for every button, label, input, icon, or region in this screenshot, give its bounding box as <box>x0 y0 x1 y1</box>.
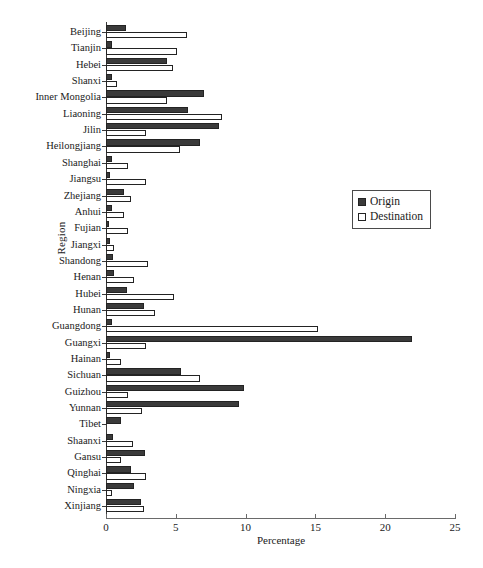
bar-chart: Region BeijingTianjinHebeiShanxiInner Mo… <box>0 0 483 568</box>
bar-row: Inner Mongolia <box>0 89 483 105</box>
bar-row: Xinjiang <box>0 498 483 514</box>
bar-destination <box>106 212 124 218</box>
bar-destination <box>106 277 134 283</box>
bar-row: Beijing <box>0 24 483 40</box>
bar-row: Henan <box>0 269 483 285</box>
bar-origin <box>106 221 109 227</box>
bar-origin <box>106 287 127 293</box>
bar-origin <box>106 90 204 96</box>
bar-origin <box>106 41 112 47</box>
x-axis-tick-label: 10 <box>226 521 266 533</box>
bar-destination <box>106 81 117 87</box>
bar-destination <box>106 32 187 38</box>
y-axis-tick-label: Hainan <box>0 351 101 367</box>
bar-origin <box>106 270 114 276</box>
bar-destination <box>106 114 222 120</box>
y-axis-tick-label: Jilin <box>0 122 101 138</box>
y-axis-tick-label: Hunan <box>0 302 101 318</box>
bar-origin <box>106 385 244 391</box>
legend-swatch-destination-icon <box>358 213 366 221</box>
x-axis-tick <box>176 514 177 519</box>
bar-row: Shaanxi <box>0 433 483 449</box>
bar-row: Ningxia <box>0 482 483 498</box>
bar-origin <box>106 417 121 423</box>
y-axis-tick-label: Heilongjiang <box>0 138 101 154</box>
y-axis-tick-label: Guangxi <box>0 335 101 351</box>
bar-destination <box>106 310 155 316</box>
bar-row: Jiangsu <box>0 171 483 187</box>
bar-row: Yunnan <box>0 400 483 416</box>
bar-origin <box>106 107 188 113</box>
x-axis-tick-label: 5 <box>156 521 196 533</box>
y-axis-tick-label: Anhui <box>0 204 101 220</box>
bar-origin <box>106 58 167 64</box>
x-axis-title: Percentage <box>106 534 456 546</box>
y-axis-tick-label: Tibet <box>0 416 101 432</box>
y-axis-tick-label: Beijing <box>0 24 101 40</box>
y-axis-tick-label: Jiangxi <box>0 237 101 253</box>
bar-destination <box>106 473 146 479</box>
bar-destination <box>106 179 146 185</box>
bar-origin <box>106 499 141 505</box>
x-axis-tick <box>385 514 386 519</box>
bar-destination <box>106 294 174 300</box>
bar-destination <box>106 146 180 152</box>
bar-row: Gansu <box>0 449 483 465</box>
x-axis-tick <box>106 514 107 519</box>
bar-destination <box>106 261 148 267</box>
bar-origin <box>106 352 110 358</box>
y-axis-tick-label: Gansu <box>0 449 101 465</box>
x-axis-tick <box>246 514 247 519</box>
y-axis-tick-label: Hubei <box>0 286 101 302</box>
y-axis-tick-label: Tianjin <box>0 40 101 56</box>
bar-destination <box>106 196 131 202</box>
y-axis-tick-label: Xinjiang <box>0 498 101 514</box>
bar-row: Hebei <box>0 57 483 73</box>
legend-swatch-origin-icon <box>358 198 366 206</box>
bar-destination <box>106 65 173 71</box>
bar-origin <box>106 139 200 145</box>
bar-row: Tibet <box>0 416 483 432</box>
bar-destination <box>106 228 128 234</box>
y-axis-tick-label: Shandong <box>0 253 101 269</box>
bar-row: Hunan <box>0 302 483 318</box>
bar-destination <box>106 359 121 365</box>
x-axis-tick <box>455 514 456 519</box>
bar-origin <box>106 74 112 80</box>
y-axis-tick-label: Ningxia <box>0 482 101 498</box>
bar-origin <box>106 303 144 309</box>
bar-destination <box>106 392 128 398</box>
y-axis-tick-label: Shaanxi <box>0 433 101 449</box>
bar-destination <box>106 408 142 414</box>
bar-destination <box>106 343 146 349</box>
y-axis-tick-label: Inner Mongolia <box>0 89 101 105</box>
x-axis-tick-label: 25 <box>435 521 475 533</box>
bar-destination <box>106 326 318 332</box>
bar-origin <box>106 172 110 178</box>
y-axis-tick-label: Liaoning <box>0 106 101 122</box>
bar-origin <box>106 401 239 407</box>
y-axis-tick-label: Hebei <box>0 57 101 73</box>
y-axis-tick <box>102 424 106 425</box>
legend-label-destination: Destination <box>370 209 423 224</box>
bar-row: Guangxi <box>0 335 483 351</box>
bar-destination <box>106 97 167 103</box>
bar-origin <box>106 368 181 374</box>
legend-label-origin: Origin <box>370 194 400 209</box>
x-axis-tick-label: 0 <box>86 521 126 533</box>
bar-destination <box>106 130 146 136</box>
bar-row: Hainan <box>0 351 483 367</box>
bar-row: Shanxi <box>0 73 483 89</box>
bar-destination <box>106 490 112 496</box>
bar-destination <box>106 245 114 251</box>
bar-row: Guangdong <box>0 318 483 334</box>
y-axis-tick-label: Henan <box>0 269 101 285</box>
bar-row: Shandong <box>0 253 483 269</box>
bar-origin <box>106 205 112 211</box>
bar-origin <box>106 254 113 260</box>
y-axis-tick-label: Shanghai <box>0 155 101 171</box>
y-axis-tick-label: Sichuan <box>0 367 101 383</box>
y-axis-tick-label: Guizhou <box>0 384 101 400</box>
legend-item-destination: Destination <box>358 209 423 224</box>
bar-row: Liaoning <box>0 106 483 122</box>
